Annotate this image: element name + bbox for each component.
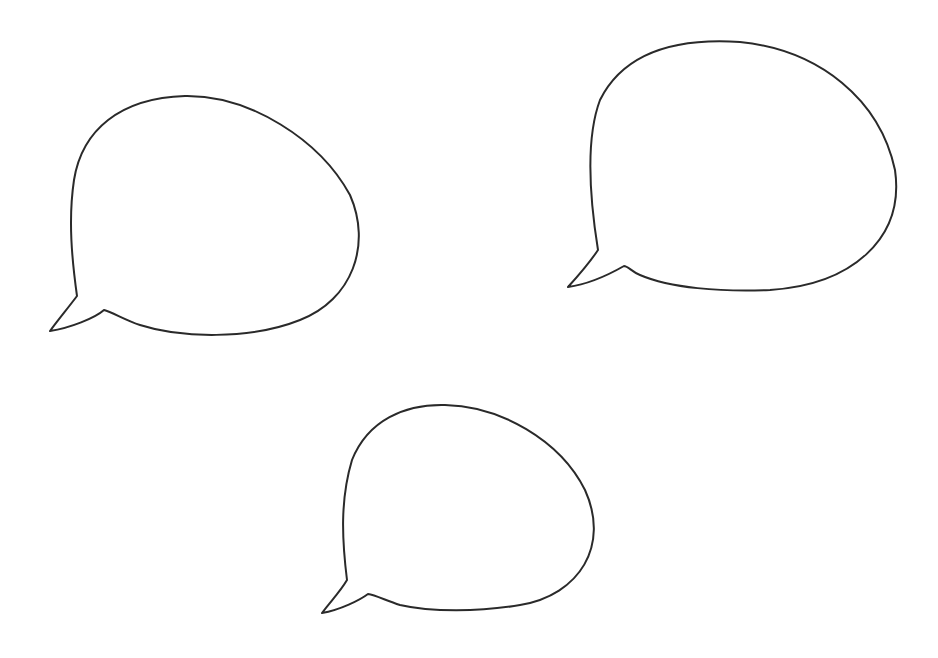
speech-bubble-top-right — [568, 41, 896, 290]
speech-bubbles-canvas — [0, 0, 938, 658]
speech-bubble-bottom-center — [322, 405, 594, 613]
speech-bubble-top-left — [50, 96, 359, 335]
